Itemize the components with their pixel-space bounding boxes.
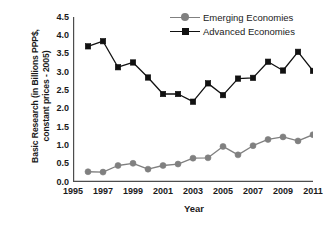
data-point-marker bbox=[295, 49, 300, 54]
data-point-marker bbox=[220, 92, 225, 97]
y-axis-tick-labels: 0.00.51.01.52.02.53.03.54.04.5 bbox=[45, 0, 69, 195]
data-point-marker bbox=[100, 39, 105, 44]
data-point-marker bbox=[130, 160, 136, 166]
x-axis-tick-label: 2001 bbox=[148, 186, 178, 196]
x-axis-tick-label: 2003 bbox=[178, 186, 208, 196]
data-point-marker bbox=[205, 81, 210, 86]
data-point-marker bbox=[265, 136, 271, 142]
data-point-marker bbox=[115, 65, 120, 70]
data-point-marker bbox=[235, 152, 241, 158]
legend-circle-icon bbox=[181, 13, 189, 21]
x-axis-tick-label: 1997 bbox=[88, 186, 118, 196]
data-point-marker bbox=[160, 91, 165, 96]
data-point-marker bbox=[310, 132, 313, 138]
data-point-marker bbox=[115, 163, 121, 169]
data-point-marker bbox=[175, 91, 180, 96]
y-axis-tick-label: 3.0 bbox=[47, 68, 69, 77]
series-line-1 bbox=[88, 41, 313, 101]
plot-area bbox=[73, 17, 313, 182]
data-point-marker bbox=[280, 68, 285, 73]
legend-label: Emerging Economies bbox=[200, 12, 293, 23]
data-point-marker bbox=[310, 68, 313, 73]
y-axis-tick-label: 1.5 bbox=[47, 123, 69, 132]
data-point-marker bbox=[145, 75, 150, 80]
legend-item-emerging[interactable]: Emerging Economies bbox=[170, 10, 322, 24]
y-axis-tick-label: 2.5 bbox=[47, 86, 69, 95]
x-axis-tick-label: 1999 bbox=[118, 186, 148, 196]
y-axis-tick-label: 0.5 bbox=[47, 159, 69, 168]
chart-legend: Emerging EconomiesAdvanced Economies bbox=[170, 10, 322, 38]
y-axis-title-line-1: Basic Research (in Billions PPP$, bbox=[30, 2, 41, 190]
x-axis-tick-label: 2009 bbox=[268, 186, 298, 196]
data-point-marker bbox=[85, 169, 91, 175]
data-point-marker bbox=[280, 134, 286, 140]
data-point-marker bbox=[235, 76, 240, 81]
x-axis-tick-label: 1995 bbox=[58, 186, 88, 196]
data-point-marker bbox=[190, 99, 195, 104]
legend-label: Advanced Economies bbox=[200, 26, 295, 37]
y-axis-tick-label: 4.5 bbox=[47, 13, 69, 22]
y-axis-tick-label: 2.0 bbox=[47, 104, 69, 113]
data-point-marker bbox=[130, 60, 135, 65]
legend-marker bbox=[170, 11, 200, 23]
data-point-marker bbox=[190, 155, 196, 161]
data-point-marker bbox=[220, 143, 226, 149]
data-point-marker bbox=[160, 163, 166, 169]
x-axis-tick-label: 2007 bbox=[238, 186, 268, 196]
x-axis-title: Year bbox=[73, 203, 315, 214]
data-point-marker bbox=[265, 59, 270, 64]
y-axis-tick-label: 4.0 bbox=[47, 31, 69, 40]
x-axis-tick-label: 2011 bbox=[298, 186, 328, 196]
legend-square-icon bbox=[182, 28, 189, 35]
x-axis-tick-labels: 199519971999200120032005200720092011 bbox=[73, 186, 315, 200]
data-point-marker bbox=[205, 155, 211, 161]
y-axis-tick-label: 1.0 bbox=[47, 141, 69, 150]
data-point-marker bbox=[175, 161, 181, 167]
chart-figure: Basic Research (in Billions PPP$, consta… bbox=[0, 0, 328, 234]
series-line-0 bbox=[88, 135, 313, 172]
data-point-marker bbox=[85, 44, 90, 49]
x-axis-tick-label: 2005 bbox=[208, 186, 238, 196]
y-axis-tick-label: 3.5 bbox=[47, 49, 69, 58]
legend-marker bbox=[170, 25, 200, 37]
data-point-marker bbox=[145, 166, 151, 172]
data-point-marker bbox=[250, 75, 255, 80]
y-axis-title: Basic Research (in Billions PPP$, consta… bbox=[0, 0, 34, 195]
legend-item-advanced[interactable]: Advanced Economies bbox=[170, 24, 322, 38]
data-point-marker bbox=[295, 138, 301, 144]
data-point-marker bbox=[250, 143, 256, 149]
data-point-marker bbox=[100, 169, 106, 175]
plot-canvas bbox=[73, 17, 313, 182]
